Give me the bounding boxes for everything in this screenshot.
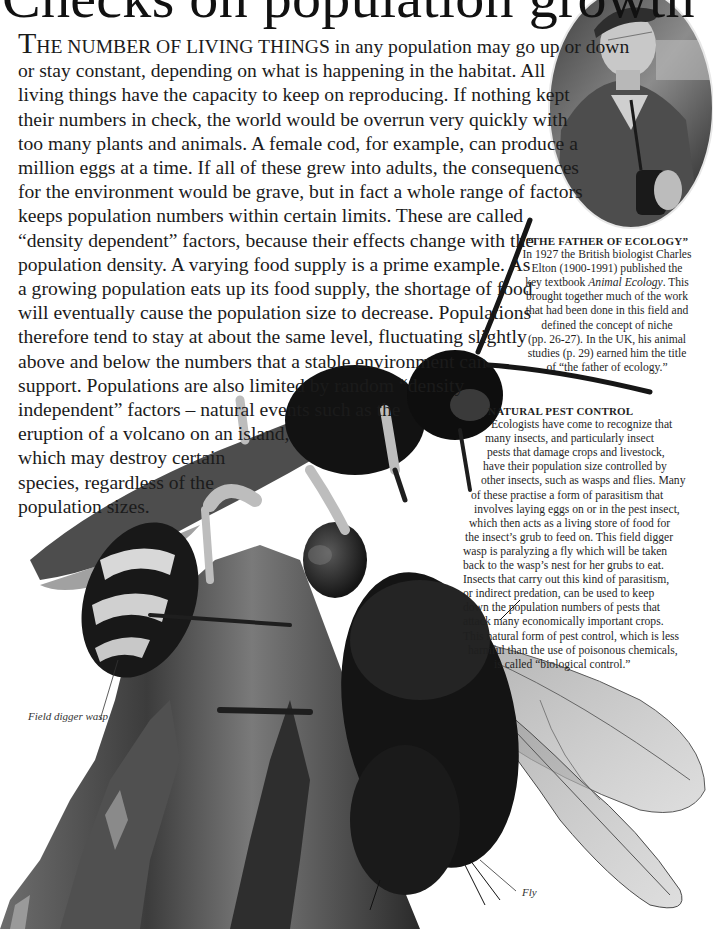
caption-line: harmful than the use of poisonous chemic… <box>463 644 713 658</box>
label-field-digger-wasp: Field digger wasp <box>28 710 108 722</box>
pest-caption-heading: NATURAL PEST CONTROL <box>463 404 713 418</box>
caption-line: of these practise a form of parasitism t… <box>463 489 713 503</box>
drop-cap: T <box>18 26 36 59</box>
caption-line: of “the father of ecology.” <box>503 361 711 375</box>
portrait-caption: “THE FATHER OF ECOLOGY” In 1927 the Brit… <box>503 234 711 375</box>
caption-line: is called “biological control.” <box>463 658 713 672</box>
caption-line: (pp. 26-27). In the UK, his animal <box>503 333 711 347</box>
body-line: or stay constant, depending on what is h… <box>18 59 629 83</box>
caption-line: that had been done in this field and <box>503 304 711 318</box>
caption-line: back to the wasp’s nest for her grubs to… <box>463 559 713 573</box>
caption-line: wasp is paralyzing a fly which will be t… <box>463 545 713 559</box>
body-line: living things have the capacity to keep … <box>18 83 629 107</box>
caption-line: This natural form of pest control, which… <box>463 630 713 644</box>
caption-line: Insects that carry out this kind of para… <box>463 573 713 587</box>
page: Checks on population growth THE NUMBER O… <box>0 0 713 929</box>
caption-line: studies (p. 29) earned him the title <box>503 347 711 361</box>
caption-line: Elton (1900-1991) published the <box>503 262 711 276</box>
pest-control-caption: NATURAL PEST CONTROL Ecologists have com… <box>463 404 713 672</box>
body-line: for the environment would be grave, but … <box>18 180 629 204</box>
caption-line: brought together much of the work <box>503 290 711 304</box>
caption-line: other insects, such as wasps and flies. … <box>463 474 713 488</box>
body-line: support. Populations are also limited by… <box>18 374 629 398</box>
body-line: million eggs at a time. If all of these … <box>18 156 629 180</box>
caption-line: involves laying eggs on or in the pest i… <box>463 503 713 517</box>
caption-line: key textbook Animal Ecology. This <box>503 276 711 290</box>
body-line-1: THE NUMBER OF LIVING THINGS in any popul… <box>18 33 629 59</box>
caption-line: down the population numbers of pests tha… <box>463 601 713 615</box>
caption-line: or indirect predation, can be used to ke… <box>463 587 713 601</box>
caption-line: which then acts as a living store of foo… <box>463 517 713 531</box>
caption-line: attack many economically important crops… <box>463 615 713 629</box>
caption-line: many insects, and particularly insect <box>463 432 713 446</box>
caption-line: Ecologists have come to recognize that <box>463 418 713 432</box>
label-fly: Fly <box>522 886 537 898</box>
fly-label-pointer <box>480 860 516 891</box>
body-line: too many plants and animals. A female co… <box>18 132 629 156</box>
lead-in-smallcaps: HE NUMBER OF LIVING THINGS <box>36 36 330 57</box>
body-line: keeps population numbers within certain … <box>18 204 629 228</box>
caption-line: defined the concept of niche <box>503 319 711 333</box>
caption-line: have their population size controlled by <box>463 460 713 474</box>
page-title: Checks on population growth <box>2 0 695 27</box>
portrait-caption-heading: “THE FATHER OF ECOLOGY” <box>503 234 711 248</box>
caption-line: pests that damage crops and livestock, <box>463 446 713 460</box>
body-line: their numbers in check, the world would … <box>18 108 629 132</box>
caption-line: the insect’s grub to feed on. This field… <box>463 531 713 545</box>
caption-line: In 1927 the British biologist Charles <box>503 248 711 262</box>
book-title: Animal Ecology <box>588 276 662 289</box>
